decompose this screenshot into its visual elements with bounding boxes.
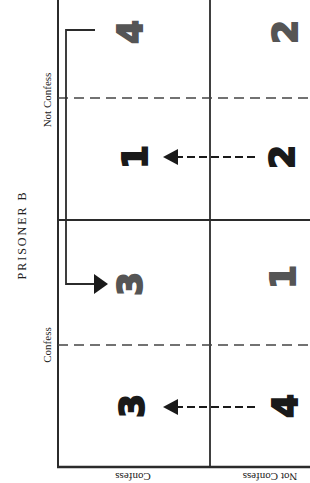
payoff-matrix-figure: Not Confess Confess PRISONER B Confess N… bbox=[0, 0, 310, 483]
prisoner-a-not-confess-label: Not Confess bbox=[243, 471, 298, 483]
dashed-arrowhead-bottom-icon bbox=[163, 399, 178, 415]
prisoner-b-not-confess-label: Not Confess bbox=[41, 73, 53, 128]
payoff-b-confess-a-notconfess-b: 4 bbox=[113, 20, 147, 44]
payoff-b-confess-a-confess-b: 3 bbox=[113, 272, 147, 296]
bracket-arrowhead-icon bbox=[94, 274, 108, 294]
payoff-a-confess-a-notconfess-b: 1 bbox=[118, 145, 152, 169]
bracket-arrow-line bbox=[66, 30, 95, 284]
payoff-a-confess-a-confess-b: 3 bbox=[115, 394, 149, 418]
dashed-arrowhead-top-icon bbox=[163, 149, 178, 165]
payoff-b-notconfess-a-notconfess-b: 2 bbox=[268, 20, 302, 44]
payoff-b-notconfess-a-confess-b: 1 bbox=[266, 265, 300, 289]
prisoner-a-confess-label: Confess bbox=[115, 471, 150, 483]
payoff-a-notconfess-a-notconfess-b: 2 bbox=[265, 145, 299, 169]
prisoner-b-confess-label: Confess bbox=[41, 327, 53, 362]
payoff-a-notconfess-a-confess-b: 4 bbox=[268, 394, 302, 418]
prisoner-b-title: PRISONER B bbox=[15, 190, 30, 279]
